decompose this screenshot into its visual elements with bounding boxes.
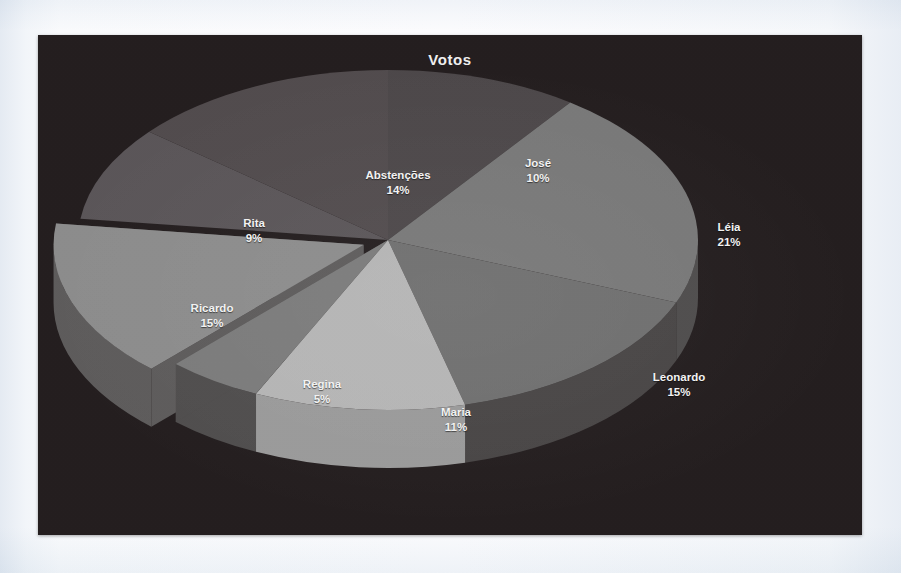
page-canvas: Votos José10%Léia21%Leonardo15%Maria bbox=[0, 0, 901, 573]
pie-top-faces bbox=[54, 70, 698, 410]
chart-title: Votos bbox=[38, 51, 862, 68]
pie-chart-svg bbox=[38, 35, 862, 535]
pie-chart: José10%Léia21%Leonardo15%Maria11%Regina5… bbox=[38, 35, 862, 535]
chart-panel: Votos José10%Léia21%Leonardo15%Maria bbox=[38, 35, 862, 535]
